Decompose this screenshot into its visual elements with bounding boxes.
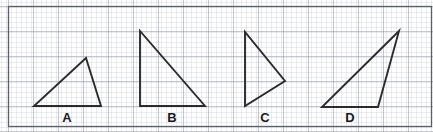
triangle-label-b: B <box>167 110 176 125</box>
triangle-label-d: D <box>345 110 354 125</box>
triangle-label-a: A <box>62 110 72 125</box>
worksheet-canvas: A B C D <box>0 0 433 132</box>
triangle-label-c: C <box>260 110 270 125</box>
triangles-figure: A B C D <box>0 0 433 132</box>
